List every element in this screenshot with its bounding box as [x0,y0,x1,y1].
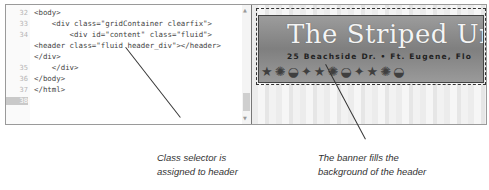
line-number: 35 [6,64,28,72]
caption-line: assigned to header [157,165,297,179]
code-line[interactable]: <div id="content" class="fluid"> [34,30,212,39]
code-line[interactable]: </body> [34,74,65,83]
code-line[interactable]: </div> [34,52,61,61]
banner-title: The Striped Uml [287,19,484,49]
caption-line: background of the header [318,165,458,179]
line-number-current: 38 [6,97,28,105]
line-number: 32 [6,9,28,17]
header-banner[interactable]: The Striped Uml 25 Beachside Dr. • Ft. E… [258,15,484,83]
code-view[interactable]: 32 33 34 35 36 37 38 <body> <div class="… [6,5,251,124]
line-number: 34 [6,31,28,39]
code-line[interactable]: <body> [34,8,61,17]
shell-decoration-icon: ★✺◒✦★✺◒✦★✺◒ [261,64,406,79]
callout-class-selector: Class selector is assigned to header [157,151,297,179]
line-number: 36 [6,75,28,83]
line-number: 37 [6,86,28,94]
code-line[interactable]: </html> [34,85,65,94]
scroll-up-icon[interactable]: ▲ [243,7,247,13]
scroll-down-icon[interactable]: ▼ [243,115,247,121]
code-line[interactable]: </div> [34,63,79,72]
dreamweaver-split-view: 32 33 34 35 36 37 38 <body> <div class="… [5,4,487,125]
line-number-gutter: 32 33 34 35 36 37 38 [6,5,30,124]
callout-banner: The banner fills the background of the h… [318,151,458,179]
caption-line: The banner fills the [318,151,458,165]
line-number: 33 [6,20,28,28]
caption-line: Class selector is [157,151,297,165]
code-scrollbar[interactable]: ▲ ▼ [242,5,251,124]
code-line[interactable]: <div class="gridContainer clearfix"> [34,19,212,28]
scroll-thumb[interactable] [243,93,250,111]
design-view[interactable]: The Striped Uml 25 Beachside Dr. • Ft. E… [252,5,486,124]
banner-address: 25 Beachside Dr. • Ft. Eugene, Flo [287,52,472,61]
